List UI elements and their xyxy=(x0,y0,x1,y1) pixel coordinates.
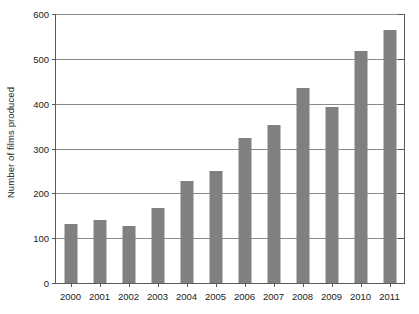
y-tick-label-200: 200 xyxy=(33,188,49,199)
bar-group: 2009 xyxy=(317,14,346,283)
y-axis-title: Number of films produced xyxy=(0,0,22,284)
x-tick-mark-2001 xyxy=(100,283,101,287)
bar[interactable] xyxy=(354,51,367,283)
bar-group: 2008 xyxy=(288,14,317,283)
bar[interactable] xyxy=(267,125,280,283)
y-tick-label-0: 0 xyxy=(44,278,49,289)
x-tick-mark-2009 xyxy=(332,283,333,287)
bar[interactable] xyxy=(325,107,338,283)
bar-chart-figure: Number of films produced 010020030040050… xyxy=(0,0,419,314)
bar[interactable] xyxy=(180,181,193,283)
bar-group: 2006 xyxy=(230,14,259,283)
bar-group: 2003 xyxy=(143,14,172,283)
bar-group: 2001 xyxy=(85,14,114,283)
y-tick-label-300: 300 xyxy=(33,143,49,154)
x-tick-label-2004: 2004 xyxy=(176,291,197,302)
x-tick-mark-2008 xyxy=(303,283,304,287)
bar-group: 2004 xyxy=(172,14,201,283)
bar-group: 2002 xyxy=(114,14,143,283)
bar-group: 2005 xyxy=(201,14,230,283)
bar-group: 2000 xyxy=(56,14,85,283)
x-tick-label-2011: 2011 xyxy=(379,291,399,302)
x-tick-mark-2010 xyxy=(361,283,362,287)
bar[interactable] xyxy=(122,226,135,283)
x-tick-label-2001: 2001 xyxy=(89,291,110,302)
x-tick-label-2003: 2003 xyxy=(147,291,168,302)
y-tick-label-600: 600 xyxy=(33,9,49,20)
bar[interactable] xyxy=(383,30,396,283)
y-tick-label-100: 100 xyxy=(33,233,49,244)
x-tick-mark-2000 xyxy=(71,283,72,287)
gridline-y-0 xyxy=(56,283,404,284)
x-tick-label-2006: 2006 xyxy=(234,291,255,302)
x-tick-label-2000: 2000 xyxy=(60,291,81,302)
x-tick-label-2008: 2008 xyxy=(292,291,313,302)
bar[interactable] xyxy=(151,208,164,283)
bar-group: 2010 xyxy=(346,14,375,283)
x-tick-mark-2005 xyxy=(216,283,217,287)
y-tick-mark-0 xyxy=(52,283,56,284)
x-tick-label-2002: 2002 xyxy=(118,291,139,302)
x-tick-mark-2011 xyxy=(390,283,391,287)
x-tick-label-2007: 2007 xyxy=(263,291,284,302)
bar[interactable] xyxy=(209,171,222,283)
bar[interactable] xyxy=(296,88,309,283)
y-axis-title-text: Number of films produced xyxy=(6,86,17,197)
bar[interactable] xyxy=(64,224,77,283)
bar-group: 2007 xyxy=(259,14,288,283)
x-tick-mark-2002 xyxy=(129,283,130,287)
y-tick-label-400: 400 xyxy=(33,98,49,109)
bar[interactable] xyxy=(93,220,106,283)
x-tick-label-2010: 2010 xyxy=(350,291,371,302)
x-tick-label-2005: 2005 xyxy=(205,291,226,302)
bar-group: 2011 xyxy=(375,14,404,283)
x-tick-mark-2007 xyxy=(274,283,275,287)
x-tick-mark-2004 xyxy=(187,283,188,287)
y-tick-label-500: 500 xyxy=(33,53,49,64)
x-tick-mark-2006 xyxy=(245,283,246,287)
bar[interactable] xyxy=(238,138,251,283)
x-tick-mark-2003 xyxy=(158,283,159,287)
bar-series: 2000200120022003200420052006200720082009… xyxy=(56,14,404,283)
plot-area: 0100200300400500600 20002001200220032004… xyxy=(55,14,405,284)
x-tick-label-2009: 2009 xyxy=(321,291,342,302)
